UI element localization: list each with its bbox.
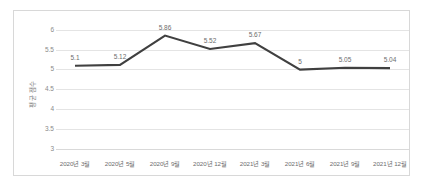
x-tick-label: 2020년 12월 bbox=[193, 161, 227, 167]
y-axis-tick-labels: 6 5.5 5 4.5 4 3.5 3 bbox=[14, 11, 54, 175]
x-axis-tick-labels: 2020년 3월2020년 5월2020년 9월2020년 12월2021년 3… bbox=[14, 156, 411, 176]
y-tick-label: 3 bbox=[24, 146, 54, 153]
data-point-label: 5.67 bbox=[249, 32, 262, 39]
gridline bbox=[56, 69, 409, 70]
x-tick-label: 2020년 9월 bbox=[150, 161, 181, 167]
gridline bbox=[56, 129, 409, 130]
data-point-label: 5.04 bbox=[384, 57, 397, 64]
x-tick-label: 2021년 12월 bbox=[373, 161, 407, 167]
data-point-label: 5.86 bbox=[159, 24, 172, 31]
data-point-label: 5 bbox=[298, 58, 302, 65]
data-point-label: 5.05 bbox=[339, 56, 352, 63]
x-tick-label: 2021년 9월 bbox=[330, 161, 361, 167]
gridline bbox=[56, 30, 409, 31]
y-tick-label: 4 bbox=[24, 106, 54, 113]
gridline bbox=[56, 89, 409, 90]
plot-area: 평균 점수 6 5.5 5 4.5 4 3.5 3 5.15.125.865.5… bbox=[14, 11, 409, 175]
gridline bbox=[56, 109, 409, 110]
data-point-label: 5.12 bbox=[114, 53, 127, 60]
gridline-baseline bbox=[56, 149, 409, 150]
data-point-label: 5.1 bbox=[70, 54, 79, 61]
chart-container: 평균 점수 6 5.5 5 4.5 4 3.5 3 5.15.125.865.5… bbox=[13, 10, 410, 176]
x-tick-label: 2020년 3월 bbox=[60, 161, 91, 167]
x-tick-label: 2021년 3월 bbox=[240, 161, 271, 167]
x-tick-label: 2021년 6월 bbox=[285, 161, 316, 167]
y-tick-label: 6 bbox=[24, 27, 54, 34]
y-tick-label: 3.5 bbox=[24, 126, 54, 133]
data-point-label: 5.52 bbox=[204, 38, 217, 45]
x-tick-label: 2020년 5월 bbox=[105, 161, 136, 167]
y-tick-label: 4.5 bbox=[24, 86, 54, 93]
gridline bbox=[56, 50, 409, 51]
y-tick-label: 5 bbox=[24, 66, 54, 73]
y-tick-label: 5.5 bbox=[24, 47, 54, 54]
